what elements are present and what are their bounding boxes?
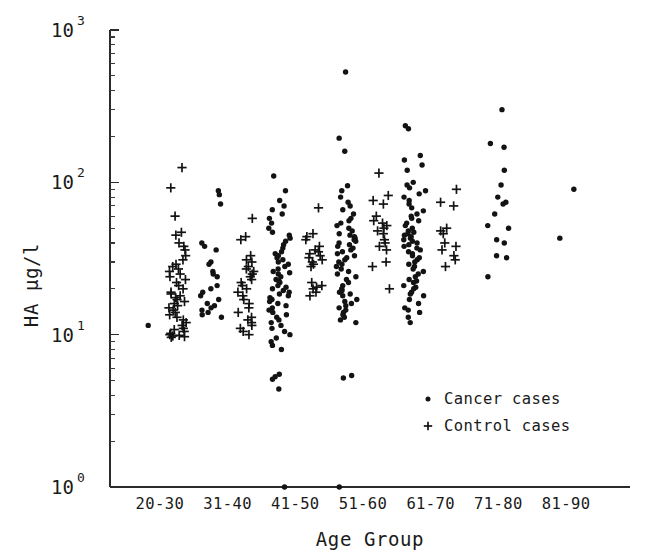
data-point-cancer [335, 244, 340, 249]
data-point-cancer [410, 266, 415, 271]
data-point-cancer [198, 293, 203, 298]
data-point-cancer [347, 291, 352, 296]
y-tick-label: 10 [51, 19, 74, 41]
data-point-cancer [346, 269, 351, 274]
data-point-cancer [275, 283, 280, 288]
data-point-cancer [342, 149, 347, 154]
data-point-cancer [492, 211, 497, 216]
data-point-cancer [270, 343, 275, 348]
marker-plus-icon [451, 255, 460, 264]
data-point-cancer [218, 201, 223, 206]
data-point-cancer [499, 107, 504, 112]
data-point-cancer [423, 188, 428, 193]
data-point-cancer [208, 305, 213, 310]
marker-plus-icon [181, 275, 190, 284]
data-point-cancer [287, 270, 292, 275]
data-point-cancer [276, 317, 281, 322]
data-point-cancer [335, 251, 340, 256]
data-point-cancer [501, 145, 506, 150]
data-point-cancer [277, 198, 282, 203]
y-axis-ticks [110, 30, 119, 487]
data-point-cancer [206, 262, 211, 267]
data-point-cancer [214, 274, 219, 279]
data-point-cancer [338, 317, 343, 322]
data-point-cancer [270, 377, 275, 382]
data-point-cancer [271, 269, 276, 274]
data-point-cancer [340, 249, 345, 254]
data-point-cancer [205, 310, 210, 315]
data-point-cancer [337, 231, 342, 236]
data-point-cancer [349, 373, 354, 378]
data-point-cancer [406, 126, 411, 131]
scatter-plot-figure: 100101102103 20-3031-4041-5051-6061-7071… [0, 0, 648, 557]
data-point-cancer [498, 182, 503, 187]
data-point-cancer [406, 262, 411, 267]
marker-plus-icon [374, 168, 383, 177]
data-point-cancer [337, 484, 342, 489]
data-point-cancer [282, 484, 287, 489]
data-point-cancer [202, 244, 207, 249]
data-point-cancer [342, 257, 347, 262]
data-point-cancer [287, 332, 292, 337]
x-tick-label-51-60: 51-60 [339, 495, 388, 513]
data-point-cancer [485, 274, 490, 279]
data-point-cancer [407, 297, 412, 302]
data-point-cancer [219, 315, 224, 320]
data-point-cancer [276, 386, 281, 391]
data-point-cancer [502, 168, 507, 173]
data-point-cancer [340, 207, 345, 212]
data-point-cancer [282, 329, 287, 334]
data-point-cancer [339, 188, 344, 193]
x-tick-label-41-50: 41-50 [271, 495, 320, 513]
legend-marker-dot-icon [426, 397, 431, 402]
data-point-cancer [410, 253, 415, 258]
x-axis-title: Age Group [316, 528, 424, 550]
data-point-cancer [199, 312, 204, 317]
marker-plus-icon [180, 332, 189, 341]
data-point-cancer [270, 286, 275, 291]
data-point-cancer [406, 242, 411, 247]
legend-label-control: Control cases [444, 417, 571, 435]
marker-plus-icon [317, 281, 326, 290]
data-point-cancer [352, 253, 357, 258]
data-point-cancer [345, 183, 350, 188]
data-point-cancer [208, 286, 213, 291]
data-point-cancer [401, 283, 406, 288]
x-tick-label-81-90: 81-90 [542, 495, 591, 513]
data-point-cancer [418, 247, 423, 252]
data-point-cancer [346, 280, 351, 285]
data-point-cancer [401, 194, 406, 199]
marker-plus-icon [177, 163, 186, 172]
marker-plus-icon [176, 269, 185, 278]
data-point-cancer [282, 264, 287, 269]
x-tick-label-61-70: 61-70 [406, 495, 455, 513]
data-point-cancer [494, 253, 499, 258]
y-tick-exponent: 3 [77, 13, 85, 28]
data-point-cancer [406, 307, 411, 312]
data-point-cancer [269, 220, 274, 225]
data-point-cancer [421, 293, 426, 298]
marker-plus-icon [307, 278, 316, 287]
legend: Cancer casesControl cases [424, 390, 571, 435]
marker-plus-icon [451, 242, 460, 251]
data-point-cancer [213, 247, 218, 252]
data-point-cancer [416, 191, 421, 196]
marker-plus-icon [441, 262, 450, 271]
data-point-cancer [340, 293, 345, 298]
marker-plus-icon [170, 212, 179, 221]
data-point-cancer [416, 301, 421, 306]
data-point-cancer [274, 335, 279, 340]
marker-plus-icon [452, 185, 461, 194]
data-point-cancer [339, 262, 344, 267]
data-point-cancer [411, 180, 416, 185]
data-point-cancer [403, 223, 408, 228]
data-point-cancer [287, 235, 292, 240]
data-point-cancer [334, 223, 339, 228]
data-point-cancer [275, 266, 280, 271]
data-point-cancer [416, 218, 421, 223]
data-point-cancer [557, 235, 562, 240]
marker-plus-icon [369, 196, 378, 205]
data-point-cancer [199, 307, 204, 312]
data-point-cancer [336, 305, 341, 310]
data-point-cancer [406, 315, 411, 320]
